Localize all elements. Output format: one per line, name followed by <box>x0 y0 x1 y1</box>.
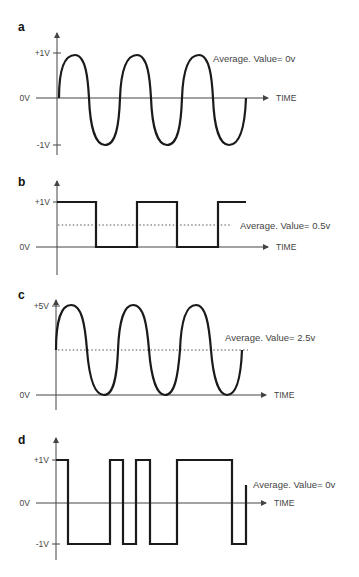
average-annotation: Average. Value= 0v <box>253 479 336 490</box>
average-annotation: Average. Value= 2.5v <box>225 332 315 343</box>
panel-label: d <box>18 433 25 447</box>
x-axis-label: TIME <box>274 390 295 400</box>
tick-label: +5V <box>34 301 50 311</box>
average-annotation: Average. Value= 0.5v <box>240 220 330 231</box>
tick-label: +1V <box>34 455 50 465</box>
panel-a: a +1V 0V -1V Average. Value= 0v TIME <box>18 20 297 155</box>
x-axis-label: TIME <box>276 93 297 103</box>
sine-wave <box>59 55 246 145</box>
tick-label: -1V <box>37 140 51 150</box>
x-axis-label: TIME <box>274 498 295 508</box>
panel-c: c +5V 0V Average. Value= 2.5v TIME <box>18 288 315 410</box>
panel-b: b +1V 0V Average. Value= 0.5v TIME <box>18 175 330 275</box>
panel-d: d +1V 0V -1V Average. Value= 0v TIME <box>18 433 336 560</box>
tick-label: +1V <box>35 197 51 207</box>
tick-label: -1V <box>36 539 50 549</box>
panel-label: a <box>18 20 25 34</box>
tick-label: 0V <box>20 242 31 252</box>
tick-label: 0V <box>20 93 31 103</box>
tick-label: 0V <box>20 498 31 508</box>
panel-label: b <box>18 175 25 189</box>
tick-label: 0V <box>20 390 31 400</box>
tick-label: +1V <box>35 48 51 58</box>
pulse-wave <box>56 460 246 544</box>
panel-label: c <box>18 288 25 302</box>
average-annotation: Average. Value= 0v <box>213 53 296 64</box>
waveform-figure: a +1V 0V -1V Average. Value= 0v TIME b +… <box>0 0 359 577</box>
x-axis-label: TIME <box>276 242 297 252</box>
